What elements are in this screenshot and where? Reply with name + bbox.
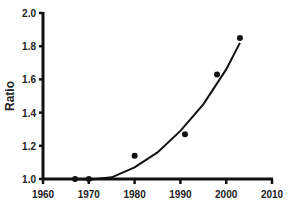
y-tick-label: 1.6 bbox=[22, 74, 36, 85]
x-tick-label: 1990 bbox=[169, 189, 192, 200]
data-point bbox=[72, 176, 78, 182]
y-axis-label: Ratio bbox=[3, 81, 17, 111]
y-tick-label: 2.0 bbox=[22, 8, 36, 19]
data-point bbox=[182, 131, 188, 137]
y-axis-ticks: 1.01.21.41.61.82.0 bbox=[22, 8, 43, 185]
data-point bbox=[86, 176, 92, 182]
data-point bbox=[132, 153, 138, 159]
x-axis-ticks: 196019701980199020002010 bbox=[32, 179, 284, 200]
x-tick-label: 2000 bbox=[215, 189, 238, 200]
data-points bbox=[72, 35, 243, 182]
x-tick-label: 1980 bbox=[123, 189, 146, 200]
ratio-chart: 1.01.21.41.61.82.0 196019701980199020002… bbox=[0, 0, 290, 206]
fit-curve bbox=[75, 43, 240, 180]
x-tick-label: 2010 bbox=[261, 189, 284, 200]
y-tick-label: 1.2 bbox=[22, 141, 36, 152]
x-tick-label: 1970 bbox=[78, 189, 101, 200]
x-tick-label: 1960 bbox=[32, 189, 55, 200]
y-tick-label: 1.8 bbox=[22, 41, 36, 52]
data-point bbox=[237, 35, 243, 41]
y-tick-label: 1.4 bbox=[22, 108, 36, 119]
y-tick-label: 1.0 bbox=[22, 174, 36, 185]
data-point bbox=[214, 71, 220, 77]
